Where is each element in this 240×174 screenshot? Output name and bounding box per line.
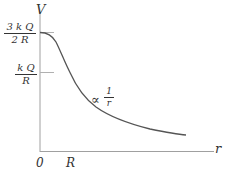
y-tick-mid-numerator: k Q (15, 63, 37, 75)
y-tick-top-denominator: 2 R (4, 34, 36, 45)
potential-curve (40, 33, 186, 136)
y-axis-label: V (36, 3, 45, 16)
r-tick-label: R (66, 157, 75, 169)
y-tick-top-fraction: 3 k Q 2 R (4, 22, 36, 45)
proportional-symbol: ∝ (91, 93, 100, 106)
x-axis-label: r (215, 142, 221, 155)
one-over-r-numerator: 1 (104, 87, 114, 98)
y-tick-mid-denominator: R (15, 75, 37, 86)
y-tick-mid-fraction: k Q R (15, 63, 37, 86)
y-tick-top-numerator: 3 k Q (4, 22, 36, 34)
one-over-r-fraction: 1 r (104, 87, 114, 108)
origin-label: 0 (36, 157, 44, 169)
one-over-r-denominator: r (104, 98, 114, 108)
potential-plot (0, 0, 240, 174)
